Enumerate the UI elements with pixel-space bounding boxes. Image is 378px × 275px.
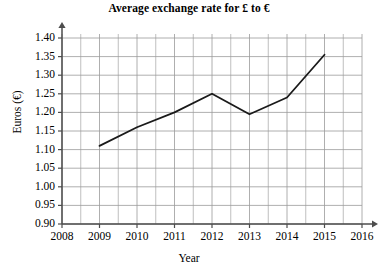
axis-ticks xyxy=(58,38,362,228)
chart-figure: Average exchange rate for £ to € Euros (… xyxy=(0,0,378,275)
x-tick-label: 2014 xyxy=(267,231,307,243)
y-tick-label: 1.15 xyxy=(21,125,55,137)
x-tick-label: 2011 xyxy=(155,231,195,243)
x-tick-label: 2013 xyxy=(230,231,270,243)
x-tick-label: 2012 xyxy=(192,231,232,243)
y-tick-label: 0.95 xyxy=(21,199,55,211)
y-axis-arrow xyxy=(58,22,65,28)
y-tick-label: 1.25 xyxy=(21,88,55,100)
y-tick-label: 1.30 xyxy=(21,69,55,81)
x-tick-label: 2009 xyxy=(80,231,120,243)
y-tick-label: 1.10 xyxy=(21,144,55,156)
y-tick-label: 1.40 xyxy=(21,32,55,44)
y-tick-label: 1.35 xyxy=(21,51,55,63)
y-tick-label: 0.90 xyxy=(21,218,55,230)
x-tick-label: 2015 xyxy=(305,231,345,243)
x-axis-arrow xyxy=(372,220,378,227)
x-tick-label: 2010 xyxy=(117,231,157,243)
x-tick-label: 2008 xyxy=(42,231,82,243)
y-tick-label: 1.00 xyxy=(21,181,55,193)
y-tick-label: 1.05 xyxy=(21,162,55,174)
y-tick-label: 1.20 xyxy=(21,106,55,118)
x-tick-label: 2016 xyxy=(342,231,378,243)
axes xyxy=(58,22,378,228)
